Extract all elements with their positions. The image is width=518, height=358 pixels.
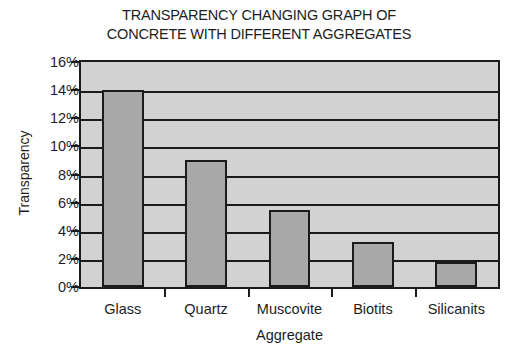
gridline (81, 91, 498, 93)
y-tick-mark (71, 202, 79, 204)
y-tick-mark (71, 117, 79, 119)
y-tick-mark (71, 89, 79, 91)
x-tick-label: Silicanits (428, 301, 485, 318)
y-tick-mark (71, 230, 79, 232)
gridline (81, 260, 498, 262)
gridline (81, 119, 498, 121)
y-tick-mark (71, 258, 79, 260)
x-axis-title: Aggregate (79, 327, 500, 343)
plot-area (79, 60, 500, 289)
y-tick-mark (71, 145, 79, 147)
x-tick-mark (331, 289, 333, 297)
y-tick-mark (71, 286, 79, 288)
gridline (81, 204, 498, 206)
bar-chart: TRANSPARENCY CHANGING GRAPH OF CONCRETE … (0, 0, 518, 358)
y-axis-ticks: 0%2%4%6%8%10%12%14%16% (25, 60, 79, 289)
x-tick-label: Glass (104, 301, 141, 318)
x-tick-label: Biotits (353, 301, 393, 318)
y-tick-mark (71, 174, 79, 176)
gridline (81, 232, 498, 234)
chart-title: TRANSPARENCY CHANGING GRAPH OF CONCRETE … (0, 6, 518, 44)
x-tick-mark (415, 289, 417, 297)
y-tick-mark (71, 61, 79, 63)
x-tick-label: Quartz (184, 301, 228, 318)
x-tick-label: Muscovite (257, 301, 322, 318)
gridline (81, 147, 498, 149)
x-tick-mark (164, 289, 166, 297)
gridline (81, 176, 498, 178)
x-tick-mark (248, 289, 250, 297)
